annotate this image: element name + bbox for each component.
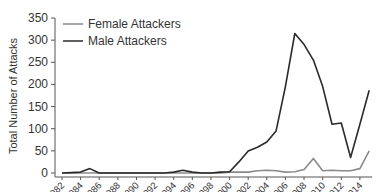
x-tick-label: 2000	[211, 180, 234, 192]
x-tick-label: 2010	[304, 180, 327, 192]
female-attackers-line	[62, 151, 369, 173]
x-tick-label: 2008	[286, 180, 309, 192]
x-tick-label: 2012	[323, 180, 346, 192]
legend-label-male: Male Attackers	[88, 34, 167, 48]
y-tick-label: 150	[28, 100, 48, 114]
y-tick-label: 250	[28, 55, 48, 69]
x-axis: 1982198419861988199019921994199619982000…	[44, 177, 373, 192]
x-tick-label: 1996	[174, 180, 197, 192]
x-tick-label: 1994	[155, 180, 178, 192]
x-tick-label: 1982	[44, 180, 67, 192]
x-tick-label: 2004	[249, 180, 272, 192]
x-tick-label: 2014	[342, 180, 365, 192]
legend-label-female: Female Attackers	[88, 17, 181, 31]
x-tick-label: 1990	[118, 180, 141, 192]
x-tick-label: 1998	[193, 180, 216, 192]
x-tick-label: 1988	[100, 180, 123, 192]
y-axis: 050100150200250300350	[28, 11, 55, 180]
y-tick-label: 200	[28, 77, 48, 91]
y-tick-label: 50	[35, 144, 49, 158]
line-chart: 050100150200250300350 198219841986198819…	[0, 0, 383, 192]
chart-svg: 050100150200250300350 198219841986198819…	[0, 0, 383, 192]
y-tick-label: 300	[28, 33, 48, 47]
y-axis-label: Total Number of Attacks	[7, 37, 19, 154]
legend: Female Attackers Male Attackers	[63, 17, 181, 48]
y-tick-label: 350	[28, 11, 48, 25]
x-tick-label: 1984	[62, 180, 85, 192]
x-tick-label: 2006	[267, 180, 290, 192]
y-tick-label: 0	[41, 166, 48, 180]
male-attackers-line	[62, 34, 369, 174]
series-lines	[62, 34, 369, 174]
x-tick-label: 1986	[81, 180, 104, 192]
y-tick-label: 100	[28, 122, 48, 136]
x-tick-label: 2002	[230, 180, 253, 192]
x-tick-label: 1992	[137, 180, 160, 192]
